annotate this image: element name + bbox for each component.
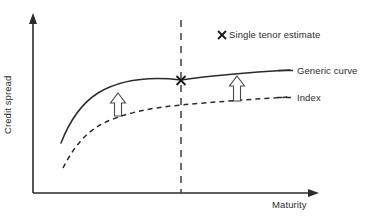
credit-spread-maturity-figure: Credit spread Maturity Single tenor esti… (0, 0, 371, 220)
y-axis-label: Credit spread (0, 0, 8, 54)
x-axis-arrowhead (308, 189, 319, 197)
legend-x-marker-icon (218, 31, 226, 39)
legend-index-label: Index (297, 93, 321, 103)
index-curve-path (63, 97, 289, 168)
y-axis-arrowhead (29, 13, 37, 24)
credit-spread-axis (29, 13, 37, 193)
generic-curve-path (61, 70, 290, 143)
legend-generic-curve-label: Generic curve (297, 66, 357, 76)
y-axis-label-text: Credit spread (3, 76, 13, 134)
x-axis-label: Maturity (272, 200, 307, 210)
maturity-axis (33, 189, 319, 197)
shift-up-arrow-left-icon (111, 93, 126, 116)
shift-up-arrow-right-icon (230, 76, 245, 101)
legend-single-tenor-label: Single tenor estimate (229, 30, 320, 40)
